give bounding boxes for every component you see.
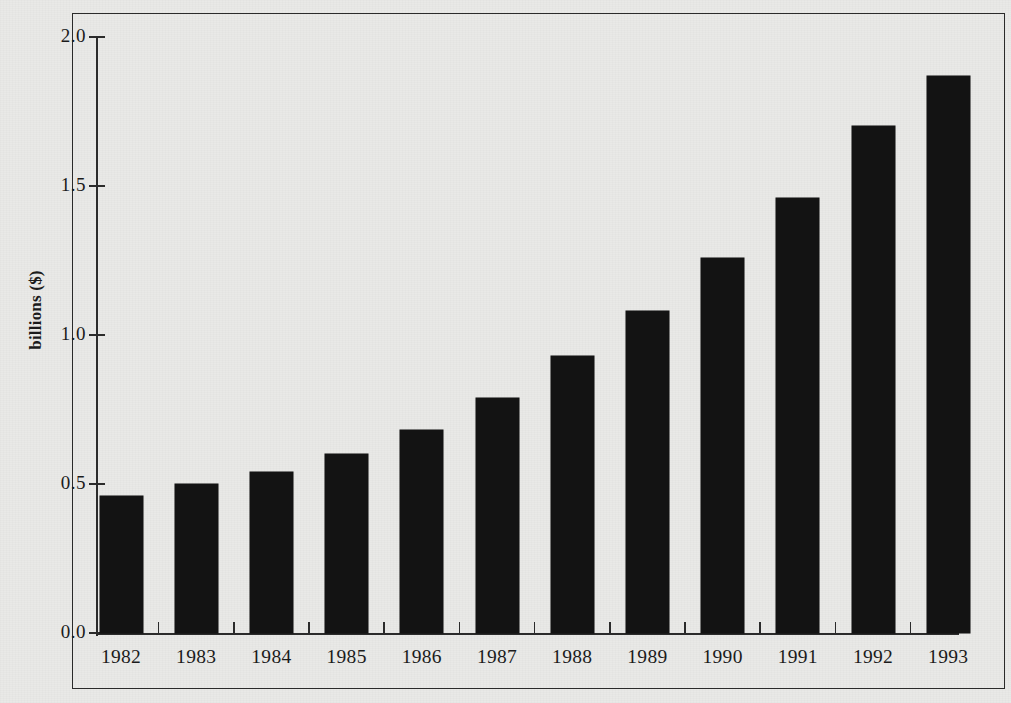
x-axis-tick-label: 1982 (83, 646, 158, 668)
bar (551, 356, 594, 633)
y-axis-tick-label-text: 0.0 (28, 621, 86, 643)
bar (325, 454, 368, 633)
x-axis-tick (684, 622, 686, 635)
y-axis-tick-label: 1.0 (20, 323, 86, 345)
y-axis-line (96, 36, 98, 636)
x-axis-tick (609, 622, 611, 635)
y-axis-tick (89, 185, 105, 187)
bar (100, 496, 143, 633)
y-axis-tick (89, 334, 105, 336)
x-axis-tick-label: 1993 (911, 646, 986, 668)
bar (400, 430, 443, 633)
y-axis-title: billions ($) (26, 240, 46, 380)
bar (852, 126, 895, 633)
y-axis-tick-label-text: 1.0 (28, 323, 86, 345)
x-axis-tick (308, 622, 310, 635)
x-axis-tick-label: 1992 (835, 646, 910, 668)
y-axis-tick (89, 36, 105, 38)
x-axis-tick-label: 1991 (760, 646, 835, 668)
x-axis-tick-label: 1984 (234, 646, 309, 668)
x-axis-tick-label: 1989 (610, 646, 685, 668)
y-axis-tick (89, 483, 105, 485)
bar (476, 398, 519, 633)
y-axis-tick-label: 2.0 (20, 25, 86, 47)
y-axis-tick-label: 0.0 (20, 621, 86, 643)
y-axis-tick-label-text: 2.0 (28, 25, 86, 47)
x-axis-tick-label: 1985 (309, 646, 384, 668)
x-axis-line (96, 633, 959, 635)
x-axis-tick (459, 622, 461, 635)
bar (626, 311, 669, 633)
chart-page: billions ($) 2.01.51.00.50.0 19821983198… (0, 0, 1011, 703)
x-axis-tick (835, 622, 837, 635)
y-axis-tick-label-text: 1.5 (28, 174, 86, 196)
x-axis-tick (158, 622, 160, 635)
y-axis-tick-label: 0.5 (20, 472, 86, 494)
bar (250, 472, 293, 633)
x-axis-tick-label: 1988 (535, 646, 610, 668)
x-axis-tick-label: 1983 (159, 646, 234, 668)
x-axis-tick-label: 1990 (685, 646, 760, 668)
y-axis-tick-label-text: 0.5 (28, 472, 86, 494)
x-axis-tick (383, 622, 385, 635)
bar (175, 484, 218, 633)
bar (927, 76, 970, 633)
y-axis-tick-label: 1.5 (20, 174, 86, 196)
x-axis-tick (910, 622, 912, 635)
bar (776, 198, 819, 633)
x-axis-tick (759, 622, 761, 635)
bar (701, 258, 744, 633)
x-axis-tick (534, 622, 536, 635)
x-axis-tick (233, 622, 235, 635)
x-axis-tick-label: 1986 (384, 646, 459, 668)
x-axis-tick-label: 1987 (459, 646, 534, 668)
